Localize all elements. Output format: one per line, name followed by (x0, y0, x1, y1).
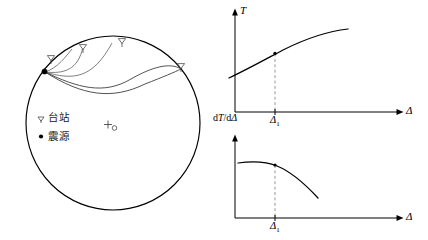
legend-source-label: 震源 (48, 131, 69, 142)
slowness-marked-point (273, 163, 276, 166)
travel-time-curve (229, 29, 348, 78)
slowness-y-arrow (232, 135, 238, 142)
travel-time-x-axis-label: Δ (406, 105, 412, 116)
station-marker-3 (118, 39, 125, 47)
legend-station-symbol (38, 117, 44, 123)
slowness-curve (238, 162, 318, 198)
travel-time-tick-sub: 1 (276, 120, 280, 128)
travel-time-y-axis-label: T (240, 5, 246, 16)
slowness-x-axis-label: Δ (406, 211, 412, 222)
seismic-raypath-figure: 台站 震源 T Δ Δ1 dT/dΔ Δ Δ1 (0, 0, 428, 240)
slowness-tick-sub: 1 (276, 226, 280, 234)
slowness-x-arrow (397, 215, 404, 221)
ray-path-5 (45, 66, 181, 88)
slowness-x-tick-label: Δ1 (270, 221, 280, 234)
slowness-chart-group (232, 135, 403, 222)
travel-time-y-arrow (232, 9, 238, 16)
earth-cross-section-group (26, 36, 200, 210)
earth-center-marker (104, 121, 117, 131)
ray-path-1 (45, 49, 72, 72)
legend-station-label: 台站 (48, 112, 69, 123)
station-marker-2 (79, 45, 86, 53)
earth-circle (26, 36, 200, 210)
earthquake-source-marker (42, 69, 47, 74)
travel-time-marked-point (273, 52, 276, 55)
legend-source-symbol (39, 134, 43, 138)
slowness-y-axis-label: dT/dΔ (213, 113, 237, 123)
travel-time-chart-group (229, 9, 404, 116)
travel-time-x-arrow (397, 109, 404, 115)
travel-time-x-tick-label: Δ1 (270, 115, 280, 128)
